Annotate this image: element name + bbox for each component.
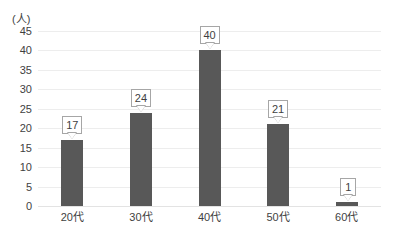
callout-tail-icon: [137, 106, 145, 112]
bar-chart: (人) 454035302520151050 172440211 20代30代4…: [0, 0, 394, 245]
x-axis-tick-labels: 20代30代40代50代60代: [38, 210, 381, 230]
bar[interactable]: [130, 113, 152, 206]
bar[interactable]: [336, 202, 358, 206]
y-axis-tick-label: 40: [6, 45, 32, 56]
y-axis-tick-label: 5: [6, 182, 32, 193]
y-axis-tick-label: 0: [6, 201, 32, 212]
x-axis-tick-label: 30代: [106, 210, 176, 224]
y-axis-tick-label: 35: [6, 65, 32, 76]
bar-value-label: 17: [62, 116, 82, 134]
plot-area: 172440211: [38, 31, 381, 206]
bar[interactable]: [199, 50, 221, 206]
chart-title: [0, 0, 394, 1]
callout-tail-icon: [344, 195, 352, 201]
x-axis-tick-label: 40代: [175, 210, 245, 224]
y-axis-tick-label: 45: [6, 26, 32, 37]
y-axis-tick-label: 30: [6, 84, 32, 95]
y-axis-tick-label: 15: [6, 143, 32, 154]
callout-tail-icon: [206, 43, 214, 49]
bar-value-label: 24: [131, 89, 151, 107]
bar[interactable]: [61, 140, 83, 206]
bar-value-label: 21: [268, 100, 288, 118]
bar[interactable]: [267, 124, 289, 206]
callout-tail-icon: [68, 133, 76, 139]
x-axis-tick-label: 60代: [312, 210, 382, 224]
y-axis-tick-label: 20: [6, 123, 32, 134]
bar-value-label: 1: [340, 178, 356, 196]
y-axis-tick-labels: 454035302520151050: [6, 31, 32, 206]
y-axis-tick-label: 25: [6, 104, 32, 115]
bar-value-label: 40: [200, 26, 220, 44]
callout-tail-icon: [274, 117, 282, 123]
axis-baseline: [38, 206, 381, 207]
y-axis-tick-label: 10: [6, 162, 32, 173]
x-axis-tick-label: 20代: [37, 210, 107, 224]
x-axis-tick-label: 50代: [243, 210, 313, 224]
